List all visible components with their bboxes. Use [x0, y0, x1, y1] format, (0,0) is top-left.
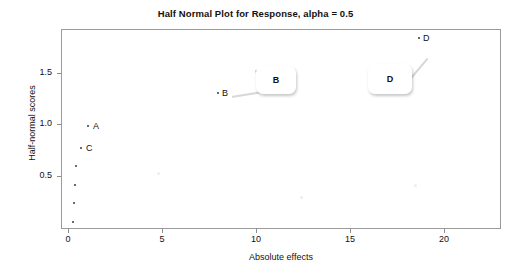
- data-point: [72, 221, 74, 223]
- xtick-mark-15: [350, 229, 351, 233]
- xtick-mark-20: [444, 229, 445, 233]
- chart-title: Half Normal Plot for Response, alpha = 0…: [0, 8, 511, 19]
- xtick-mark-10: [256, 229, 257, 233]
- xtick-label-5: 5: [147, 234, 177, 244]
- xtick-label-20: 20: [429, 234, 459, 244]
- scan-speck: [157, 172, 160, 175]
- x-axis-label: Absolute effects: [61, 252, 501, 262]
- point-label-c: C: [86, 143, 93, 153]
- data-point-b: [217, 92, 219, 94]
- data-point-d: [418, 37, 420, 39]
- half-normal-plot-figure: Half Normal Plot for Response, alpha = 0…: [0, 0, 511, 275]
- ytick-mark-15: [57, 73, 61, 74]
- xtick-mark-0: [68, 229, 69, 233]
- point-label-b: B: [222, 88, 228, 98]
- data-point-c: [80, 147, 82, 149]
- ytick-mark-10: [57, 124, 61, 125]
- data-point: [73, 202, 75, 204]
- xtick-label-0: 0: [53, 234, 83, 244]
- ytick-mark-05: [57, 176, 61, 177]
- plot-frame: [61, 29, 501, 229]
- scan-speck: [414, 184, 417, 187]
- scan-speck: [300, 196, 303, 199]
- callout-d[interactable]: D: [368, 64, 412, 94]
- xtick-label-10: 10: [241, 234, 271, 244]
- callout-b[interactable]: B: [256, 66, 296, 94]
- xtick-label-15: 15: [335, 234, 365, 244]
- point-label-d: D: [423, 33, 430, 43]
- y-axis-label: Half-normal scores: [27, 43, 37, 203]
- xtick-mark-5: [162, 229, 163, 233]
- data-point: [75, 165, 77, 167]
- data-point: [74, 184, 76, 186]
- data-point-a: [87, 125, 89, 127]
- point-label-a: A: [93, 121, 99, 131]
